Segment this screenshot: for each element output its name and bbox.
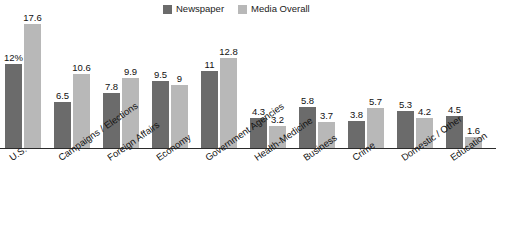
bar-value-label: 10.6 bbox=[72, 63, 91, 73]
bar-rect bbox=[54, 102, 71, 148]
bar-chart: Newspaper Media Overall 12%17.66.510.67.… bbox=[0, 0, 507, 242]
bar-rect bbox=[5, 64, 22, 148]
legend-swatch-newspaper bbox=[163, 5, 172, 14]
legend-item-media-overall[interactable]: Media Overall bbox=[238, 4, 310, 14]
x-axis-labels: U.S.Campaigns / ElectionsForeign Affairs… bbox=[0, 150, 507, 242]
bar-value-label: 5.3 bbox=[399, 100, 412, 110]
bar-value-label: 9 bbox=[177, 74, 182, 84]
bar-value-label: 5.8 bbox=[301, 96, 314, 106]
bar-value-label: 6.5 bbox=[56, 91, 69, 101]
bar-value-label: 17.6 bbox=[23, 13, 42, 23]
legend-swatch-media-overall bbox=[238, 5, 247, 14]
bar-value-label: 7.8 bbox=[105, 82, 118, 92]
bar-value-label: 3.8 bbox=[350, 110, 363, 120]
bar-rect bbox=[201, 71, 218, 148]
bar-newspaper[interactable]: 12% bbox=[5, 64, 22, 148]
bar-media-overall[interactable]: 17.6 bbox=[24, 24, 41, 148]
bar-value-label: 5.7 bbox=[369, 97, 382, 107]
bar-value-label: 11 bbox=[205, 60, 215, 70]
bar-value-label: 9.9 bbox=[124, 67, 137, 77]
bar-rect bbox=[152, 81, 169, 148]
bar-newspaper[interactable]: 11 bbox=[201, 71, 218, 148]
bar-value-label: 12.8 bbox=[219, 47, 238, 57]
chart-legend: Newspaper Media Overall bbox=[163, 4, 310, 14]
bar-value-label: 12% bbox=[4, 53, 23, 63]
legend-label-newspaper: Newspaper bbox=[176, 4, 224, 14]
bar-rect bbox=[24, 24, 41, 148]
bar-newspaper[interactable]: 9.5 bbox=[152, 81, 169, 148]
bar-newspaper[interactable]: 6.5 bbox=[54, 102, 71, 148]
bar-group: 12%17.6 bbox=[5, 24, 41, 148]
bar-value-label: 3.7 bbox=[320, 111, 333, 121]
bar-value-label: 9.5 bbox=[154, 70, 167, 80]
legend-item-newspaper[interactable]: Newspaper bbox=[163, 4, 224, 14]
bar-newspaper[interactable]: 5.3 bbox=[397, 111, 414, 148]
bar-rect bbox=[397, 111, 414, 148]
bar-value-label: 4.2 bbox=[418, 107, 431, 117]
legend-label-media-overall: Media Overall bbox=[251, 4, 310, 14]
